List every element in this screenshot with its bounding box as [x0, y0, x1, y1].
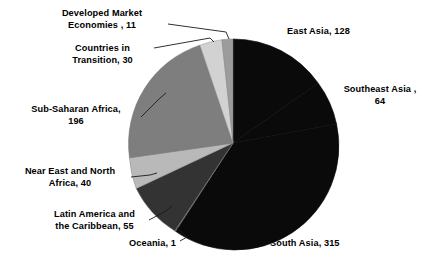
pie-label-east-asia: East Asia, 128 — [287, 26, 407, 38]
pie-label-southeast-asia: Southeast Asia , 64 — [334, 84, 426, 107]
pie-label-sub-saharan-africa: Sub-Saharan Africa, 196 — [12, 104, 140, 127]
pie-label-oceania: Oceania, 1 — [90, 238, 176, 250]
pie-label-south-asia: South Asia, 315 — [270, 238, 390, 250]
leader-line-developed-market — [168, 24, 229, 39]
pie-label-latin-america: Latin America and the Caribbean, 55 — [42, 209, 147, 232]
pie-chart-figure: Developed Market Economies , 11 Countrie… — [0, 0, 428, 266]
pie-label-near-east: Near East and North Africa, 40 — [10, 166, 130, 189]
pie-label-developed-market: Developed Market Economies , 11 — [32, 8, 172, 31]
pie-label-countries-in-transition: Countries in Transition, 30 — [40, 43, 165, 66]
